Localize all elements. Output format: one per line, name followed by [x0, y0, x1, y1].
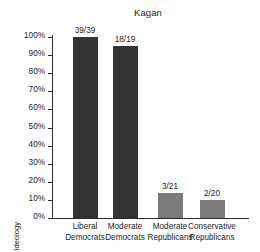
bar-chart: Kagan Percentage voting for Kagan by par… — [0, 0, 260, 252]
x-axis-category-label: ConservativeRepublicans — [186, 222, 238, 243]
x-axis-category-label-line: Republicans — [186, 233, 238, 244]
y-axis-tick-label: 90% — [29, 49, 45, 58]
bar-value-label: 2/20 — [204, 189, 220, 198]
y-axis-tick-mark — [48, 146, 52, 147]
y-axis-tick-mark — [48, 182, 52, 183]
y-axis-tick-label: 40% — [29, 140, 45, 149]
bar-value-label: 3/21 — [162, 182, 178, 191]
y-axis-tick-mark — [48, 55, 52, 56]
y-axis-tick: 30% — [0, 164, 52, 165]
y-axis-tick-mark — [48, 164, 52, 165]
y-axis-tick-mark — [48, 218, 52, 219]
y-axis-tick-label: 10% — [29, 194, 45, 203]
y-axis-tick-mark — [48, 109, 52, 110]
y-axis-tick: 0% — [0, 218, 52, 219]
bar: 39/39 — [73, 37, 98, 218]
y-axis-tick: 70% — [0, 91, 52, 92]
chart-title: Kagan — [0, 7, 260, 18]
y-axis-tick-label: 0% — [33, 212, 45, 221]
y-axis-tick: 10% — [0, 200, 52, 201]
bar-value-label: 18/19 — [115, 35, 136, 44]
bar: 18/19 — [113, 46, 138, 218]
y-axis-title-container: Percentage voting for Kagan by party and… — [1, 18, 15, 222]
y-axis-tick-mark — [48, 91, 52, 92]
y-axis-title: Percentage voting for Kagan by party and… — [12, 222, 21, 252]
x-axis-category-label-line: Conservative — [188, 222, 236, 231]
y-axis-tick: 60% — [0, 109, 52, 110]
y-axis-tick-label: 100% — [24, 31, 45, 40]
y-axis-tick-mark — [48, 200, 52, 201]
x-axis-category-label-line: Moderate — [153, 222, 188, 231]
y-axis-tick: 20% — [0, 182, 52, 183]
bar-value-label: 39/39 — [75, 26, 96, 35]
y-axis-tick-mark — [48, 37, 52, 38]
plot-area: 100%90%80%70%60%50%40%30%20%10%0%39/3918… — [52, 37, 248, 218]
x-axis-category-label-line: Liberal — [73, 222, 98, 231]
y-axis-tick: 100% — [0, 37, 52, 38]
x-axis-category-label-line: Moderate — [108, 222, 143, 231]
y-axis-tick-label: 60% — [29, 103, 45, 112]
x-axis-line — [52, 218, 249, 219]
y-axis-tick-label: 20% — [29, 176, 45, 185]
y-axis-tick: 50% — [0, 128, 52, 129]
bar: 2/20 — [200, 200, 225, 218]
y-axis-tick-mark — [48, 73, 52, 74]
y-axis-tick: 90% — [0, 55, 52, 56]
y-axis-tick-label: 80% — [29, 67, 45, 76]
y-axis-tick-label: 70% — [29, 85, 45, 94]
y-axis-tick: 80% — [0, 73, 52, 74]
y-axis-tick: 40% — [0, 146, 52, 147]
y-axis-tick-label: 30% — [29, 158, 45, 167]
y-axis-tick-label: 50% — [29, 122, 45, 131]
y-axis-tick-mark — [48, 128, 52, 129]
bar: 3/21 — [158, 193, 183, 218]
